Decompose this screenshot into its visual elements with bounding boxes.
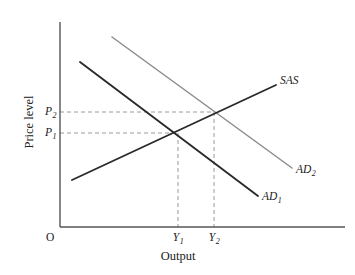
tick-label-y2-sub: 2 (216, 237, 220, 246)
x-axis-title: Output (161, 250, 196, 263)
curve-label-ad2-sub: 2 (312, 169, 316, 178)
tick-label-y2-base: Y (209, 231, 215, 243)
tick-label-p1-sub: 1 (53, 132, 57, 141)
guide-lines-group (60, 112, 214, 227)
curve-label-ad2-base: AD (296, 163, 311, 175)
axes-group (60, 22, 345, 227)
curve-label-ad2: AD2 (296, 164, 315, 176)
tick-label-y1-base: Y (173, 231, 179, 243)
curve-label-sas-base: SAS (280, 74, 299, 86)
tick-label-p2: P2 (45, 106, 56, 118)
curve-ad1 (80, 62, 258, 196)
curves-group (72, 37, 292, 196)
curve-label-ad1: AD1 (262, 191, 281, 203)
tick-label-p1-base: P (45, 126, 52, 138)
curve-label-sas: SAS (280, 75, 299, 87)
tick-label-p2-sub: 2 (53, 111, 57, 120)
tick-label-y2: Y2 (209, 232, 219, 244)
tick-label-y1: Y1 (173, 232, 183, 244)
curve-label-ad1-base: AD (262, 190, 277, 202)
origin-label: O (46, 232, 54, 244)
ad-sas-diagram: Price level Output O P2 P1 Y1 Y2 SAS AD1… (0, 0, 355, 275)
tick-label-p1: P1 (45, 127, 56, 139)
curve-label-ad1-sub: 1 (278, 196, 282, 205)
tick-label-p2-base: P (45, 105, 52, 117)
tick-label-y1-sub: 1 (180, 237, 184, 246)
